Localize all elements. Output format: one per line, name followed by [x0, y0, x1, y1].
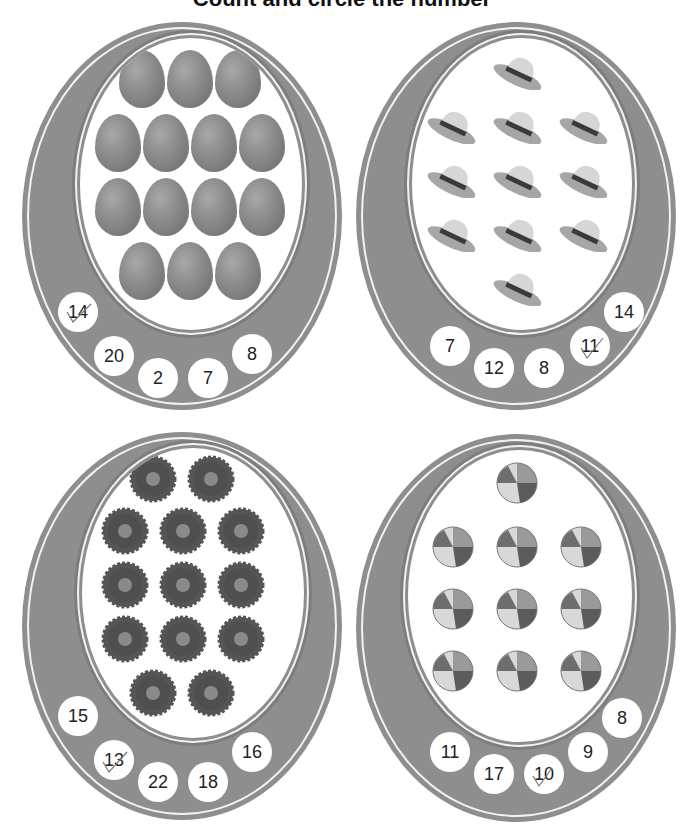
flower-icon [186, 454, 236, 504]
option-label: 10 [534, 764, 554, 785]
answer-option[interactable]: 7 [430, 326, 470, 366]
hat-icon [426, 158, 482, 198]
answer-option[interactable]: 8 [232, 334, 272, 374]
option-label: 7 [203, 368, 213, 389]
hat-icon [492, 266, 548, 306]
option-label: 15 [68, 706, 88, 727]
option-label: 14 [68, 302, 88, 323]
option-label: 7 [445, 336, 455, 357]
flower-grid [82, 448, 304, 738]
card-balls: 11 17 10 9 8 [356, 434, 676, 822]
answer-option[interactable]: 11 [570, 326, 610, 366]
option-label: 12 [484, 358, 504, 379]
flower-icon [158, 560, 208, 610]
flower-icon [158, 506, 208, 556]
egg-icon [191, 178, 237, 236]
hat-icon [492, 212, 548, 252]
beach-ball-icon [432, 588, 474, 630]
beach-ball-icon [560, 650, 602, 692]
answer-option[interactable]: 8 [602, 698, 642, 738]
flower-icon [128, 454, 178, 504]
answer-option[interactable]: 13 [94, 740, 134, 780]
option-label: 8 [617, 708, 627, 729]
object-area [80, 38, 302, 330]
ball-grid [408, 450, 632, 742]
option-label: 20 [104, 346, 124, 367]
answer-option[interactable]: 15 [58, 696, 98, 736]
hat-icon [558, 158, 614, 198]
answer-option[interactable]: 10 [524, 754, 564, 794]
option-label: 14 [614, 302, 634, 323]
egg-icon [95, 114, 141, 172]
option-label: 18 [198, 772, 218, 793]
option-label: 13 [104, 750, 124, 771]
hat-icon [426, 104, 482, 144]
beach-ball-icon [496, 650, 538, 692]
option-label: 8 [247, 344, 257, 365]
beach-ball-icon [432, 650, 474, 692]
object-area [82, 448, 304, 738]
hat-icon [558, 104, 614, 144]
egg-icon [191, 114, 237, 172]
answer-option[interactable]: 14 [58, 292, 98, 332]
flower-icon [216, 560, 266, 610]
answer-option[interactable]: 17 [474, 754, 514, 794]
flower-icon [158, 614, 208, 664]
option-label: 11 [441, 742, 460, 763]
answer-option[interactable]: 7 [188, 358, 228, 398]
answer-option[interactable]: 14 [604, 292, 644, 332]
answer-option[interactable]: 12 [474, 348, 514, 388]
flower-icon [216, 506, 266, 556]
hat-icon [558, 212, 614, 252]
object-area [408, 450, 632, 742]
option-label: 9 [583, 742, 593, 763]
option-label: 2 [153, 368, 163, 389]
option-label: 11 [581, 336, 600, 357]
egg-icon [119, 50, 165, 108]
beach-ball-icon [496, 462, 538, 504]
flower-icon [100, 560, 150, 610]
egg-icon [167, 50, 213, 108]
egg-icon [119, 242, 165, 300]
egg-icon [143, 114, 189, 172]
beach-ball-icon [496, 588, 538, 630]
beach-ball-icon [560, 526, 602, 568]
flower-icon [128, 668, 178, 718]
egg-icon [95, 178, 141, 236]
flower-icon [100, 506, 150, 556]
egg-icon [143, 178, 189, 236]
beach-ball-icon [560, 588, 602, 630]
answer-option[interactable]: 22 [138, 762, 178, 802]
page-title: Count and circle the number [0, 0, 684, 12]
card-eggs: 14 20 2 7 8 [22, 22, 342, 410]
option-label: 16 [242, 742, 262, 763]
answer-option[interactable]: 20 [94, 336, 134, 376]
hat-icon [426, 212, 482, 252]
hat-grid [412, 38, 632, 330]
egg-icon [215, 242, 261, 300]
answer-option[interactable]: 11 [430, 732, 470, 772]
option-label: 8 [539, 358, 549, 379]
egg-grid [80, 38, 302, 330]
answer-option[interactable]: 9 [568, 732, 608, 772]
egg-icon [167, 242, 213, 300]
hat-icon [492, 104, 548, 144]
card-hats: 7 12 8 11 14 [356, 22, 676, 410]
egg-icon [215, 50, 261, 108]
egg-icon [239, 114, 285, 172]
answer-option[interactable]: 16 [232, 732, 272, 772]
option-label: 22 [148, 772, 168, 793]
answer-option[interactable]: 2 [138, 358, 178, 398]
beach-ball-icon [496, 526, 538, 568]
card-flowers: 15 13 22 18 16 [22, 432, 342, 820]
hat-icon [492, 50, 548, 90]
egg-icon [239, 178, 285, 236]
hat-icon [492, 158, 548, 198]
answer-option[interactable]: 18 [188, 762, 228, 802]
option-label: 17 [484, 764, 504, 785]
object-area [412, 38, 632, 330]
flower-icon [216, 614, 266, 664]
flower-icon [100, 614, 150, 664]
beach-ball-icon [432, 526, 474, 568]
answer-option[interactable]: 8 [524, 348, 564, 388]
